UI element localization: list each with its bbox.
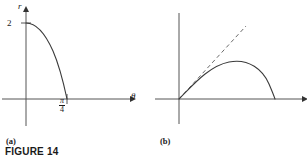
- figure-caption: FIGURE 14: [5, 146, 58, 157]
- fraction-pi-over-4: π 4: [59, 97, 65, 114]
- panel-a-curve-r-equals-2cos2theta: [26, 23, 67, 99]
- panel-a-cartesian-plot: r 2 θ π 4: [0, 0, 153, 136]
- panel-b-polar-plot: θ = π 4 2: [153, 0, 307, 136]
- panel-b-svg: [153, 0, 307, 136]
- panel-a-r-axis-label: r: [18, 2, 22, 11]
- panel-a-theta-axis-label: θ: [131, 92, 135, 101]
- panel-b-curve-petal: [179, 61, 275, 99]
- figure-14: r 2 θ π 4 θ =: [0, 0, 307, 159]
- panel-a-svg: [0, 0, 153, 136]
- panel-a-letter: (a): [6, 136, 16, 146]
- fraction-numerator: π: [59, 97, 65, 105]
- fraction-denominator: 4: [59, 105, 65, 114]
- panel-a-ytick-label-2: 2: [7, 19, 12, 28]
- panel-b-letter: (b): [160, 136, 170, 146]
- panel-a-xtick-label-pi-over-4: π 4: [59, 97, 65, 114]
